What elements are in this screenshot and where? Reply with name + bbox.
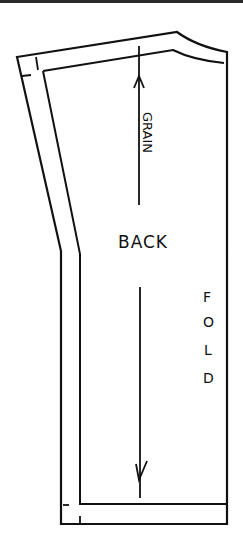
outer-cutting-line xyxy=(17,32,227,524)
grain-arrow-down-icon xyxy=(136,461,147,480)
corner-tick-left xyxy=(22,75,31,76)
corner-tick-top xyxy=(36,57,38,70)
piece-label-back: BACK xyxy=(118,232,168,252)
fold-letter-f: F xyxy=(203,289,211,305)
grain-label: GRAIN xyxy=(140,112,155,153)
fold-letter-o: O xyxy=(203,314,214,330)
fold-letter-d: D xyxy=(203,370,214,386)
fold-letter-l: L xyxy=(204,342,212,358)
pattern-piece-diagram: GRAIN BACK F O L D xyxy=(0,0,243,554)
inner-seam-line xyxy=(43,50,227,504)
